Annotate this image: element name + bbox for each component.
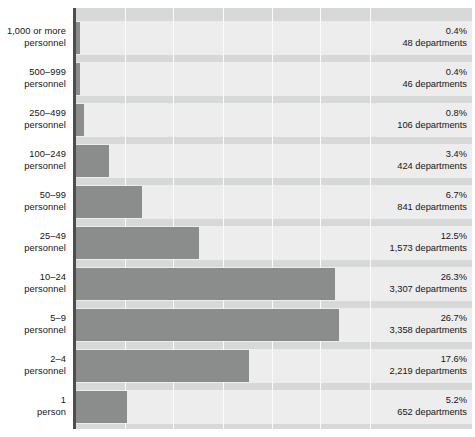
percent-value: 26.7% <box>389 313 467 325</box>
category-label-line1: 250–499 <box>0 108 66 120</box>
percent-value: 3.4% <box>397 149 467 161</box>
category-label-9: 2–4personnel <box>0 354 66 377</box>
percent-value: 26.3% <box>389 272 467 284</box>
category-label-6: 25–49personnel <box>0 231 66 254</box>
chart-plot-area: 0.4%48 departments0.4%46 departments0.8%… <box>73 8 472 429</box>
value-label-2: 0.4%46 departments <box>402 67 467 90</box>
value-label-8: 26.7%3,358 departments <box>389 313 467 336</box>
category-label-line1: 25–49 <box>0 231 66 243</box>
category-label-5: 50–99personnel <box>0 190 66 213</box>
category-label-10: 1person <box>0 395 66 418</box>
count-value: 3,358 departments <box>389 325 467 337</box>
personnel-size-distribution-chart: 0.4%48 departments0.4%46 departments0.8%… <box>0 0 475 437</box>
category-label-1: 1,000 or morepersonnel <box>0 26 66 49</box>
bar-5 <box>76 186 142 218</box>
category-label-line2: personnel <box>0 325 66 337</box>
percent-value: 12.5% <box>389 231 467 243</box>
count-value: 841 departments <box>397 202 467 214</box>
category-label-line1: 5–9 <box>0 313 66 325</box>
value-label-5: 6.7%841 departments <box>397 190 467 213</box>
bar-3 <box>76 104 84 136</box>
category-label-line1: 1 <box>0 395 66 407</box>
category-label-line2: personnel <box>0 161 66 173</box>
category-label-line2: personnel <box>0 202 66 214</box>
count-value: 106 departments <box>397 120 467 132</box>
count-value: 652 departments <box>397 407 467 419</box>
percent-value: 5.2% <box>397 395 467 407</box>
bar-10 <box>76 391 127 423</box>
count-value: 46 departments <box>402 79 467 91</box>
bar-6 <box>76 227 199 259</box>
category-label-line1: 10–24 <box>0 272 66 284</box>
gridline-5 <box>320 8 321 429</box>
category-label-line1: 2–4 <box>0 354 66 366</box>
percent-value: 0.8% <box>397 108 467 120</box>
value-label-1: 0.4%48 departments <box>402 26 467 49</box>
category-label-8: 5–9personnel <box>0 313 66 336</box>
category-label-line2: person <box>0 407 66 419</box>
gridline-6 <box>370 8 371 429</box>
category-label-line2: personnel <box>0 243 66 255</box>
value-label-10: 5.2%652 departments <box>397 395 467 418</box>
value-label-6: 12.5%1,573 departments <box>389 231 467 254</box>
percent-value: 17.6% <box>389 354 467 366</box>
value-label-4: 3.4%424 departments <box>397 149 467 172</box>
count-value: 48 departments <box>402 38 467 50</box>
category-label-line1: 500–999 <box>0 67 66 79</box>
value-label-7: 26.3%3,307 departments <box>389 272 467 295</box>
category-label-7: 10–24personnel <box>0 272 66 295</box>
category-label-line2: personnel <box>0 38 66 50</box>
category-label-2: 500–999personnel <box>0 67 66 90</box>
count-value: 424 departments <box>397 161 467 173</box>
count-value: 2,219 departments <box>389 366 467 378</box>
value-label-9: 17.6%2,219 departments <box>389 354 467 377</box>
bar-2 <box>76 63 80 95</box>
category-label-line2: personnel <box>0 79 66 91</box>
bar-7 <box>76 268 335 300</box>
bar-8 <box>76 309 339 341</box>
gridline-4 <box>272 8 273 429</box>
category-label-line2: personnel <box>0 366 66 378</box>
percent-value: 0.4% <box>402 26 467 38</box>
bar-9 <box>76 350 249 382</box>
category-label-line2: personnel <box>0 284 66 296</box>
bar-1 <box>76 22 80 54</box>
bottom-caption-artifact <box>330 430 475 437</box>
bar-4 <box>76 145 109 177</box>
category-label-line1: 100–249 <box>0 149 66 161</box>
percent-value: 6.7% <box>397 190 467 202</box>
category-label-line2: personnel <box>0 120 66 132</box>
vertical-axis-line <box>73 8 76 429</box>
count-value: 3,307 departments <box>389 284 467 296</box>
category-label-line1: 1,000 or more <box>0 26 66 38</box>
category-label-column: 1,000 or morepersonnel500–999personnel25… <box>0 0 70 437</box>
count-value: 1,573 departments <box>389 243 467 255</box>
category-label-3: 250–499personnel <box>0 108 66 131</box>
percent-value: 0.4% <box>402 67 467 79</box>
value-label-3: 0.8%106 departments <box>397 108 467 131</box>
category-label-line1: 50–99 <box>0 190 66 202</box>
category-label-4: 100–249personnel <box>0 149 66 172</box>
